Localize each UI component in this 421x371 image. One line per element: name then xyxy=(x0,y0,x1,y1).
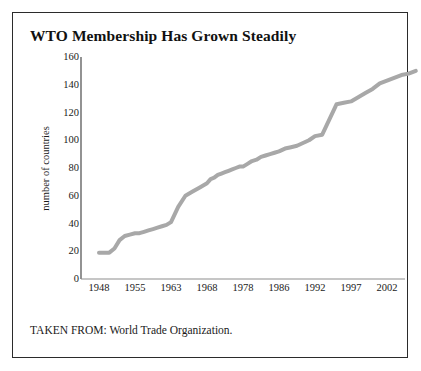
chart-plot-area: number of countries 02040608010012014016… xyxy=(13,57,407,309)
x-tick-label: 1978 xyxy=(233,283,254,294)
page-title: WTO Membership Has Grown Steadily xyxy=(30,27,380,45)
data-series-line xyxy=(99,71,416,253)
x-tick-label: 1963 xyxy=(161,283,182,294)
x-tick-label: 1955 xyxy=(125,283,146,294)
x-tick-label: 1968 xyxy=(197,283,218,294)
source-note: TAKEN FROM: World Trade Organization. xyxy=(30,324,233,336)
x-tick-label: 2002 xyxy=(377,283,398,294)
x-tick-label: 1948 xyxy=(89,283,110,294)
x-tick-label: 1986 xyxy=(269,283,290,294)
x-tick-label: 1992 xyxy=(305,283,326,294)
x-tick-label: 1997 xyxy=(341,283,362,294)
figure-frame: WTO Membership Has Grown Steadily number… xyxy=(12,12,408,358)
x-axis-tick-labels: 194819551963196819781986199219972002 xyxy=(81,283,407,301)
chart-svg xyxy=(13,57,407,309)
